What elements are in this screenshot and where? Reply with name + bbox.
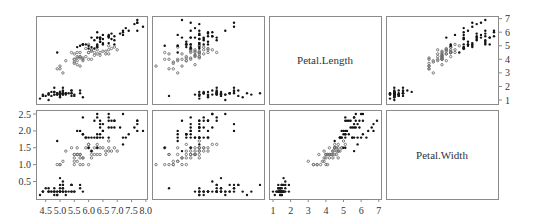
data-point <box>355 120 357 122</box>
data-point <box>67 190 69 192</box>
data-point <box>96 45 98 47</box>
data-point <box>190 43 192 45</box>
data-point <box>93 39 95 41</box>
data-point <box>242 190 244 192</box>
data-point <box>207 190 209 192</box>
data-point <box>53 187 55 189</box>
x-tick-label: 5.0 <box>54 205 67 216</box>
data-point <box>62 91 64 93</box>
data-point <box>122 34 124 36</box>
data-point <box>79 187 81 189</box>
data-point <box>284 180 286 182</box>
data-point <box>216 36 218 38</box>
data-point <box>99 136 101 138</box>
data-point <box>458 51 460 53</box>
y-tick-label: 0.5 <box>19 176 32 187</box>
y-tick-label: 3 <box>505 67 510 78</box>
data-point <box>136 130 138 132</box>
data-point <box>110 38 112 40</box>
data-point <box>203 36 205 38</box>
data-point <box>62 87 64 89</box>
data-point <box>259 184 261 186</box>
data-point <box>177 34 179 36</box>
data-point <box>128 30 130 32</box>
data-point <box>471 42 473 44</box>
data-point <box>334 140 336 142</box>
data-point <box>108 126 110 128</box>
data-point <box>164 147 166 149</box>
data-point <box>96 147 98 149</box>
x-tick-label: 2 <box>288 205 293 216</box>
data-point <box>198 190 200 192</box>
y-tick-label: 2.0 <box>19 125 32 136</box>
data-point <box>288 190 290 192</box>
data-point <box>344 136 346 138</box>
data-point <box>67 92 69 94</box>
data-point <box>87 45 89 47</box>
x-tick-label: 6.0 <box>82 205 95 216</box>
data-point <box>471 46 473 48</box>
data-point <box>128 133 130 135</box>
data-point <box>76 46 78 48</box>
data-point <box>198 143 200 145</box>
data-point <box>102 130 104 132</box>
data-point <box>190 130 192 132</box>
panel-frame <box>37 111 148 200</box>
x-tick-label: 4 <box>323 205 328 216</box>
data-point <box>372 130 374 132</box>
data-point <box>90 36 92 38</box>
data-point <box>398 93 400 95</box>
panel-petal-width-vs-sepal-width <box>153 111 265 200</box>
data-point <box>220 187 222 189</box>
data-point <box>348 133 350 135</box>
data-point <box>99 123 101 125</box>
data-point <box>190 47 192 49</box>
data-point <box>207 41 209 43</box>
data-point <box>281 184 283 186</box>
data-point <box>454 34 456 36</box>
data-point <box>203 190 205 192</box>
y-tick-label: 4 <box>505 54 510 65</box>
data-point <box>185 133 187 135</box>
data-point <box>190 123 192 125</box>
data-point <box>194 27 196 29</box>
data-point <box>259 92 261 94</box>
data-point <box>484 30 486 32</box>
data-point <box>233 87 235 89</box>
data-point <box>198 30 200 32</box>
data-point <box>164 45 166 47</box>
data-point <box>190 116 192 118</box>
data-point <box>224 30 226 32</box>
data-point <box>389 93 391 95</box>
data-point <box>207 91 209 93</box>
y-tick-label: 1 <box>505 95 510 106</box>
data-point <box>489 36 491 38</box>
data-point <box>59 93 61 95</box>
data-point <box>96 136 98 138</box>
data-point <box>229 92 231 94</box>
data-point <box>216 120 218 122</box>
data-point <box>203 194 205 196</box>
data-point <box>119 32 121 34</box>
data-point <box>177 136 179 138</box>
data-point <box>224 190 226 192</box>
panel-petal-length-vs-petal-width <box>387 17 499 105</box>
panel-petal-length-vs-petal-length: Petal.Length <box>270 17 382 105</box>
data-point <box>110 120 112 122</box>
data-point <box>198 91 200 93</box>
data-point <box>79 130 81 132</box>
data-point <box>203 92 205 94</box>
data-point <box>50 91 52 93</box>
data-point <box>79 184 81 186</box>
data-point <box>96 36 98 38</box>
data-point <box>279 187 281 189</box>
data-point <box>93 136 95 138</box>
x-axis-sepal-length: 4.55.05.56.06.57.07.58.0 <box>39 199 152 216</box>
panel-petal-width-vs-sepal-length <box>37 111 148 200</box>
data-point <box>402 95 404 97</box>
data-point <box>480 36 482 38</box>
data-point <box>207 43 209 45</box>
data-point <box>102 38 104 40</box>
data-point <box>198 187 200 189</box>
data-point <box>272 190 274 192</box>
